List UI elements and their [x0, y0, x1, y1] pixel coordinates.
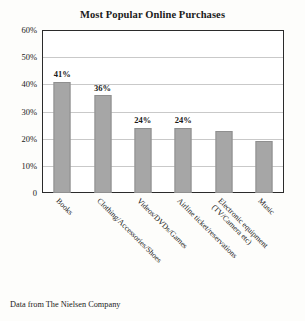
y-axis-tick-label: 0 — [0, 189, 37, 198]
bar[interactable] — [94, 95, 111, 193]
x-axis-tick: Music — [244, 195, 284, 290]
y-axis-tick-label: 40% — [0, 80, 37, 89]
source-note: Data from The Nielsen Company — [10, 300, 120, 309]
bar[interactable] — [175, 128, 192, 193]
x-axis: BooksClothing/Accessories/ShoesVideos/DV… — [42, 195, 284, 290]
bar[interactable] — [54, 82, 71, 193]
y-axis-tick-label: 10% — [0, 162, 37, 171]
bar-value-label: 36% — [94, 84, 111, 93]
y-axis-tick-label: 20% — [0, 134, 37, 143]
x-axis-tick: Videos/DVDs/Games — [123, 195, 163, 290]
y-axis-tick-label: 60% — [0, 26, 37, 35]
x-axis-tick-label: Books — [54, 197, 74, 217]
bar-value-label: 24% — [175, 116, 192, 125]
bar-slot: 24% — [163, 30, 203, 193]
y-axis: 60%50%40%30%20%10%0 — [0, 30, 39, 193]
bar-slot: 41% — [42, 30, 82, 193]
bar-slot: 24% — [123, 30, 163, 193]
bar-slot: 36% — [83, 30, 123, 193]
x-axis-tick-label-line: Music — [256, 196, 276, 216]
bar-slot — [204, 30, 244, 193]
x-axis-tick-label: Music — [255, 197, 275, 217]
y-axis-tick-label: 30% — [0, 107, 37, 116]
bar-value-label: 41% — [54, 70, 71, 79]
bar-slot — [244, 30, 284, 193]
bar[interactable] — [134, 128, 151, 193]
y-axis-tick-label: 50% — [0, 53, 37, 62]
bar-series: 41%36%24%24% — [42, 30, 284, 193]
bar[interactable] — [215, 131, 232, 193]
x-axis-tick-label-line: Books — [54, 196, 74, 216]
page-title: Most Popular Online Purchases — [0, 9, 305, 20]
bar[interactable] — [255, 141, 272, 193]
x-axis-tick: Electronic equipment(TV/Camera etc) — [204, 195, 244, 290]
x-axis-tick: Airline ticket/reservations — [163, 195, 203, 290]
x-axis-tick: Books — [42, 195, 82, 290]
bar-value-label: 24% — [134, 116, 151, 125]
x-axis-tick: Clothing/Accessories/Shoes — [83, 195, 123, 290]
chart-figure: Most Popular Online Purchases 60%50%40%3… — [0, 0, 305, 321]
